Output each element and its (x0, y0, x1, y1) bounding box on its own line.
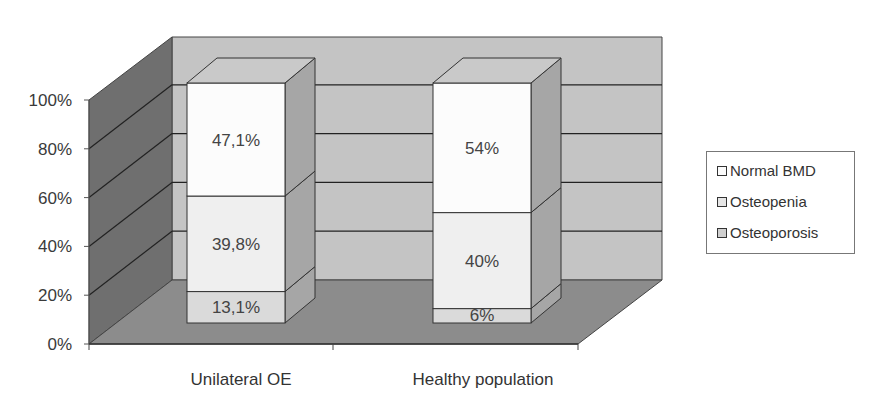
legend-label: Osteopenia (730, 193, 807, 210)
legend-swatch-icon (717, 166, 727, 176)
value-label: 47,1% (212, 131, 260, 150)
x-axis-categories: Unilateral OEHealthy population (89, 344, 578, 389)
bar-0: 13,1%39,8%47,1% (187, 58, 315, 323)
y-tick-label: 60% (38, 189, 72, 208)
value-label: 54% (465, 139, 499, 158)
bar-1: 6%40%54% (433, 58, 561, 325)
legend-item-normal-bmd: Normal BMD (717, 162, 816, 179)
x-category-label: Healthy population (413, 370, 554, 389)
x-category-label: Unilateral OE (190, 370, 291, 389)
y-tick-label: 80% (38, 140, 72, 159)
legend-item-osteopenia: Osteopenia (717, 193, 807, 210)
legend-swatch-icon (717, 197, 727, 207)
y-axis-ticks: 0%20%40%60%80%100% (29, 91, 89, 354)
value-label: 40% (465, 252, 499, 271)
y-tick-label: 20% (38, 286, 72, 305)
legend-label: Normal BMD (730, 162, 816, 179)
value-label: 39,8% (212, 235, 260, 254)
y-tick-label: 40% (38, 237, 72, 256)
y-tick-label: 100% (29, 91, 72, 110)
bar-side (531, 58, 561, 213)
value-label: 13,1% (212, 298, 260, 317)
legend: Normal BMD Osteopenia Osteoporosis (706, 151, 855, 254)
y-tick-label: 0% (47, 335, 72, 354)
floor (89, 280, 662, 344)
legend-swatch-icon (717, 228, 727, 238)
legend-item-osteoporosis: Osteoporosis (717, 224, 818, 241)
legend-label: Osteoporosis (730, 224, 818, 241)
